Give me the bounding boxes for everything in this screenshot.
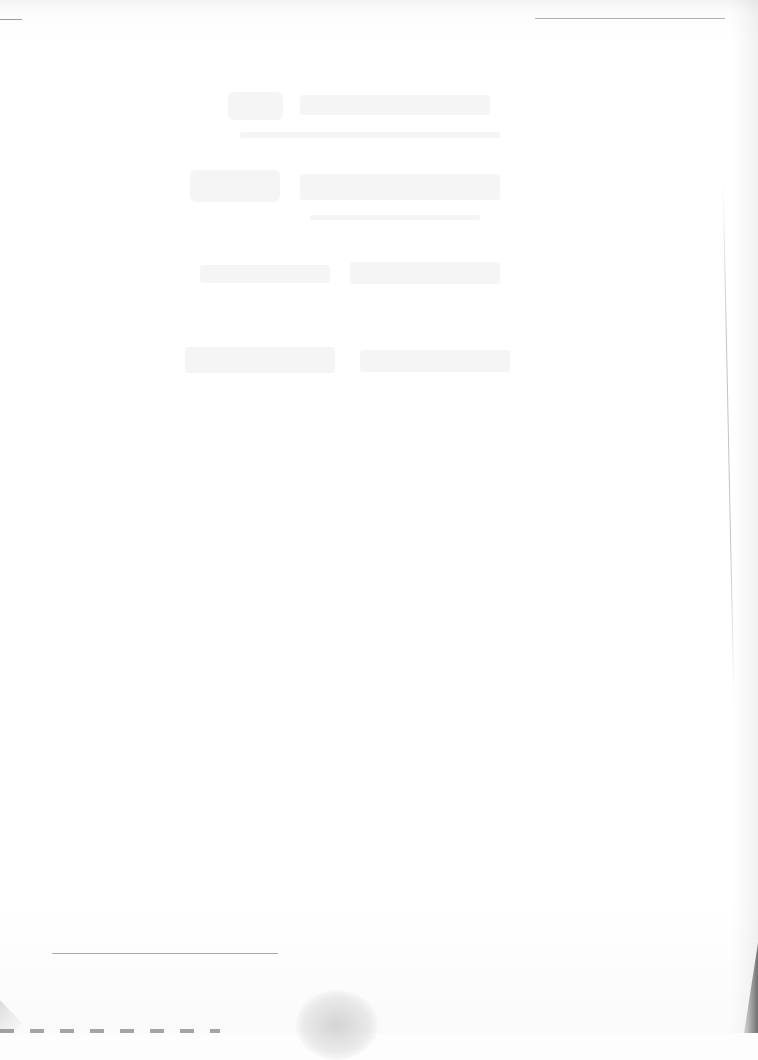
page-edge-shadow: [732, 0, 758, 1033]
footnote-separator-rule: [52, 953, 278, 954]
scan-smudge: [296, 990, 378, 1060]
bottom-edge-artifact: [0, 1029, 220, 1033]
